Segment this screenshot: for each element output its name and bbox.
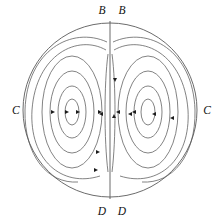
direction-arrow-icon	[96, 150, 100, 154]
label-d-left: D	[97, 205, 107, 217]
right-cell-streamlines	[113, 37, 195, 182]
label-c-left: C	[12, 104, 20, 116]
vortex-streamline-figure: B B C C D D	[0, 0, 219, 222]
streamline-loop	[50, 71, 94, 153]
streamline-outer-open	[114, 45, 188, 179]
flow-diagram-canvas: B B C C D D	[0, 0, 219, 222]
direction-arrow-icon	[76, 110, 80, 114]
direction-arrow-icon	[51, 110, 55, 114]
direction-arrow-icon	[65, 110, 69, 114]
direction-arrow-icon	[94, 168, 98, 172]
direction-arrow-icon	[152, 112, 156, 116]
near-axis-streamline	[112, 54, 115, 172]
direction-arrow-icon	[128, 112, 132, 116]
streamline-outer-open	[32, 45, 106, 179]
direction-arrow-icon	[170, 116, 174, 120]
direction-arrow-group	[51, 78, 174, 172]
label-c-right: C	[203, 104, 211, 116]
streamline-outer-open	[25, 37, 107, 182]
near-axis-streamline	[105, 54, 108, 172]
streamline-loop	[134, 86, 162, 138]
direction-arrow-icon	[113, 78, 117, 82]
left-cell-streamlines	[25, 37, 107, 182]
streamline-loop	[58, 86, 86, 138]
direction-arrow-icon	[112, 114, 116, 118]
label-b-left: B	[98, 4, 105, 16]
streamline-outer-open	[113, 37, 195, 182]
label-d-right: D	[117, 205, 127, 217]
streamline-loop	[118, 56, 178, 168]
label-b-right: B	[118, 4, 125, 16]
streamline-loop	[141, 99, 155, 125]
